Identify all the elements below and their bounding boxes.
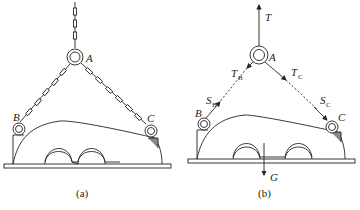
ring-a <box>67 49 83 65</box>
label-force-g: G <box>270 171 278 183</box>
rope-ac <box>286 80 318 110</box>
force-tc-arrow <box>265 62 286 80</box>
chain-ab <box>20 64 70 122</box>
label-b-point-a: A <box>268 51 276 63</box>
ring-b <box>198 118 210 130</box>
force-tb-arrow <box>247 62 253 68</box>
label-a-point-b: B <box>13 111 20 123</box>
label-force-tb: T <box>231 67 238 79</box>
ring-c <box>326 121 338 133</box>
label-a-point-a: A <box>85 52 93 64</box>
caption-a: (a) <box>76 187 89 200</box>
figure-b <box>188 5 355 175</box>
label-force-sb-sub: B <box>212 101 217 109</box>
ring-b <box>13 123 25 135</box>
label-force-sc-sub: C <box>326 101 331 109</box>
label-force-tc: T <box>291 66 298 78</box>
ring-a <box>250 46 268 64</box>
label-force-tc-sub: C <box>298 73 303 81</box>
figure-a <box>4 2 171 168</box>
label-b-point-c: C <box>338 111 346 123</box>
chain-ac <box>81 63 146 124</box>
ring-c <box>145 125 157 137</box>
label-b-point-b: B <box>195 107 202 119</box>
label-force-tb-sub: B <box>238 74 243 82</box>
label-a-point-c: C <box>147 112 155 124</box>
caption-b: (b) <box>258 187 271 200</box>
top-chain <box>74 2 77 48</box>
label-force-t: T <box>265 11 272 23</box>
diagram: A B C (a) <box>0 0 360 210</box>
